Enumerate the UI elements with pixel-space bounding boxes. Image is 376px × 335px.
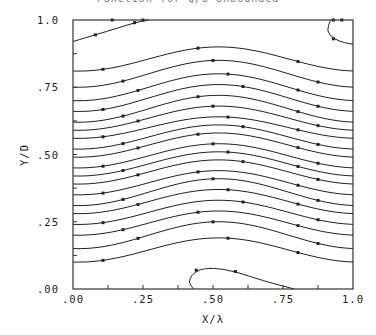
x-tick-label: .00 — [62, 293, 84, 305]
arrow-marker — [297, 224, 300, 227]
arrow-marker — [197, 47, 200, 50]
arrow-marker — [227, 188, 230, 191]
streamline — [73, 74, 353, 101]
arrow-marker — [122, 80, 125, 83]
arrow-marker — [137, 120, 140, 123]
streamline — [73, 125, 353, 149]
arrow-marker — [297, 128, 300, 131]
arrow-marker — [137, 173, 140, 176]
arrow-marker — [122, 169, 125, 172]
arrow-marker — [212, 142, 215, 145]
arrow-marker — [297, 60, 300, 63]
arrow-marker — [212, 105, 215, 108]
arrow-marker — [332, 37, 335, 40]
x-tick-label: .25 — [132, 293, 154, 305]
arrow-marker — [137, 203, 140, 206]
arrow-marker — [317, 143, 320, 146]
arrow-marker — [133, 21, 136, 24]
streamline-chart: .00.25.50.751.0 .00.25.50.751.0 X/λ Y/D — [0, 0, 376, 335]
arrow-marker — [317, 178, 320, 181]
streamline — [73, 171, 353, 195]
arrow-marker — [122, 228, 125, 231]
arrow-marker — [137, 146, 140, 149]
arrow-marker — [242, 160, 245, 163]
arrow-marker — [102, 165, 105, 168]
arrow-marker — [297, 110, 300, 113]
arrow-marker — [102, 68, 105, 71]
arrow-marker — [242, 200, 245, 203]
arrow-marker — [317, 81, 320, 84]
y-tick-label: .00 — [37, 283, 59, 295]
arrow-marker — [227, 116, 230, 119]
arrow-marker — [297, 184, 300, 187]
arrow-marker — [227, 73, 230, 76]
arrow-marker — [317, 199, 320, 202]
streamline — [73, 144, 353, 168]
arrow-marker — [242, 125, 245, 128]
arrow-marker — [227, 151, 230, 154]
streamline — [73, 222, 353, 249]
streamline — [73, 179, 353, 206]
x-tick-label: 1.0 — [342, 293, 364, 305]
arrow-marker — [317, 218, 320, 221]
arrow-marker — [297, 165, 300, 168]
arrow-marker — [137, 89, 140, 92]
arrow-marker — [195, 269, 198, 272]
arrow-marker — [94, 33, 97, 36]
top-right-recirculation — [328, 20, 353, 44]
y-tick-label: .50 — [37, 149, 59, 161]
arrow-marker — [297, 251, 300, 254]
arrow-marker — [212, 59, 215, 62]
streamline — [73, 117, 353, 139]
streamline — [73, 95, 353, 122]
x-axis-label: X/λ — [202, 313, 224, 325]
y-tick-labels: .00.25.50.751.0 — [37, 14, 59, 295]
arrow-marker — [234, 270, 237, 273]
y-tick-label: .75 — [37, 81, 59, 93]
arrow-marker — [242, 85, 245, 88]
arrow-marker — [297, 203, 300, 206]
arrow-marker — [212, 177, 215, 180]
arrow-marker — [102, 259, 105, 262]
bottom-recirculation — [189, 268, 294, 289]
arrow-marker — [102, 108, 105, 111]
y-axis-label: Y/D — [18, 144, 30, 166]
arrow-marker — [227, 237, 230, 240]
arrow-markers — [94, 19, 343, 274]
arrow-marker — [122, 115, 125, 118]
arrow-marker — [317, 242, 320, 245]
arrow-marker — [317, 105, 320, 108]
y-tick-label: 1.0 — [37, 14, 59, 26]
arrow-marker — [297, 89, 300, 92]
arrow-marker — [122, 142, 125, 145]
arrow-marker — [102, 192, 105, 195]
x-tick-labels: .00.25.50.751.0 — [62, 293, 364, 305]
arrow-marker — [297, 146, 300, 149]
x-tick-label: .75 — [272, 293, 294, 305]
arrow-marker — [197, 95, 200, 98]
arrow-marker — [317, 124, 320, 127]
arrow-marker — [197, 133, 200, 136]
arrow-marker — [122, 198, 125, 201]
arrow-marker — [102, 221, 105, 224]
x-tick-label: .50 — [202, 293, 224, 305]
arrow-marker — [197, 170, 200, 173]
arrow-marker — [102, 135, 105, 138]
top-streamline — [73, 20, 149, 42]
arrow-marker — [317, 162, 320, 165]
y-tick-label: .25 — [37, 216, 59, 228]
arrow-marker — [212, 220, 215, 223]
axis-ticks — [73, 54, 318, 289]
arrow-marker — [197, 211, 200, 214]
arrow-marker — [137, 237, 140, 240]
